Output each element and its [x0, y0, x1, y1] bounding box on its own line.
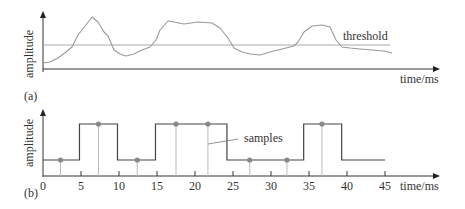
sample-dots	[58, 121, 325, 162]
panel-b-y-axis-arrow-icon	[40, 109, 46, 116]
x-tick-label: 0	[40, 179, 46, 193]
sample-stems	[60, 124, 321, 176]
square-wave	[43, 124, 385, 160]
panel-a-label: (a)	[24, 89, 37, 103]
x-tick-label: 15	[151, 179, 163, 193]
sample-dot	[173, 121, 178, 126]
x-tick-label: 30	[265, 179, 277, 193]
sample-dot	[96, 121, 101, 126]
x-tick-label: 45	[379, 179, 391, 193]
x-tick-label: 40	[341, 179, 353, 193]
panel-a-x-axis-label: time/ms	[400, 72, 439, 86]
panel-b-y-axis-label: amplitude	[22, 119, 36, 167]
panel-b-sampled-signal: 051015202530354045 samples time/ms ampli…	[22, 109, 440, 200]
sample-dot	[319, 121, 324, 126]
threshold-label: threshold	[343, 29, 388, 43]
x-tick-label: 25	[227, 179, 239, 193]
sample-dot	[247, 157, 252, 162]
panel-a-continuous-signal: threshold time/ms amplitude (a)	[22, 11, 440, 103]
sample-dot	[284, 157, 289, 162]
x-tick-label: 20	[189, 179, 201, 193]
continuous-signal-curve	[43, 17, 392, 63]
sample-dot	[58, 157, 63, 162]
panel-a-y-axis-arrow-icon	[40, 11, 46, 18]
sample-dot	[205, 121, 210, 126]
panel-b-x-axis-label: time/ms	[400, 179, 439, 193]
x-tick-label: 5	[78, 179, 84, 193]
panel-a-y-axis-label: amplitude	[22, 30, 36, 78]
x-tick-label: 10	[113, 179, 125, 193]
sample-dot	[135, 157, 140, 162]
panel-b-x-ticks: 051015202530354045	[40, 171, 391, 193]
samples-callout-line	[208, 139, 238, 144]
samples-label: samples	[244, 131, 283, 145]
x-tick-label: 35	[303, 179, 315, 193]
sampling-diagram: threshold time/ms amplitude (a) 05101520…	[0, 0, 465, 209]
panel-b-label: (b)	[24, 186, 38, 200]
